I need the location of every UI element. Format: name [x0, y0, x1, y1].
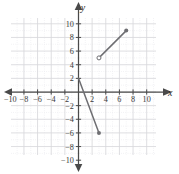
x-tick-label: −10	[4, 95, 17, 104]
y-tick-label: 4	[70, 61, 74, 70]
y-axis-label: y	[80, 2, 86, 13]
segment-start-marker	[97, 56, 101, 60]
minor-gridlines	[11, 18, 156, 155]
y-tick-label: −4	[65, 115, 74, 124]
y-tick-label: 6	[70, 47, 74, 56]
x-axis-tick-labels: −10−8−6−4−2246810	[4, 95, 151, 104]
segment-end-marker	[97, 131, 101, 135]
x-tick-label: 6	[117, 95, 121, 104]
x-tick-label: 4	[104, 95, 108, 104]
y-tick-label: −8	[65, 143, 74, 152]
coordinate-plane-figure: −10−8−6−4−2246810 108642−2−4−6−8−10 x y	[0, 0, 179, 174]
major-gridlines	[11, 18, 156, 155]
x-tick-label: −8	[20, 95, 29, 104]
y-tick-label: −2	[65, 102, 74, 111]
y-tick-label: 8	[70, 33, 74, 42]
x-tick-label: −6	[33, 95, 42, 104]
x-tick-label: 2	[90, 95, 94, 104]
y-tick-label: 2	[70, 74, 74, 83]
x-tick-label: 10	[143, 95, 151, 104]
coordinate-plane-svg: −10−8−6−4−2246810 108642−2−4−6−8−10 x y	[0, 0, 179, 174]
x-tick-label: 8	[131, 95, 135, 104]
segment-end-marker	[124, 29, 128, 33]
x-axis-label: x	[167, 87, 173, 98]
y-tick-label: −10	[61, 156, 74, 165]
y-tick-label: 10	[66, 20, 74, 29]
x-tick-label: −4	[47, 95, 56, 104]
y-tick-label: −6	[65, 129, 74, 138]
